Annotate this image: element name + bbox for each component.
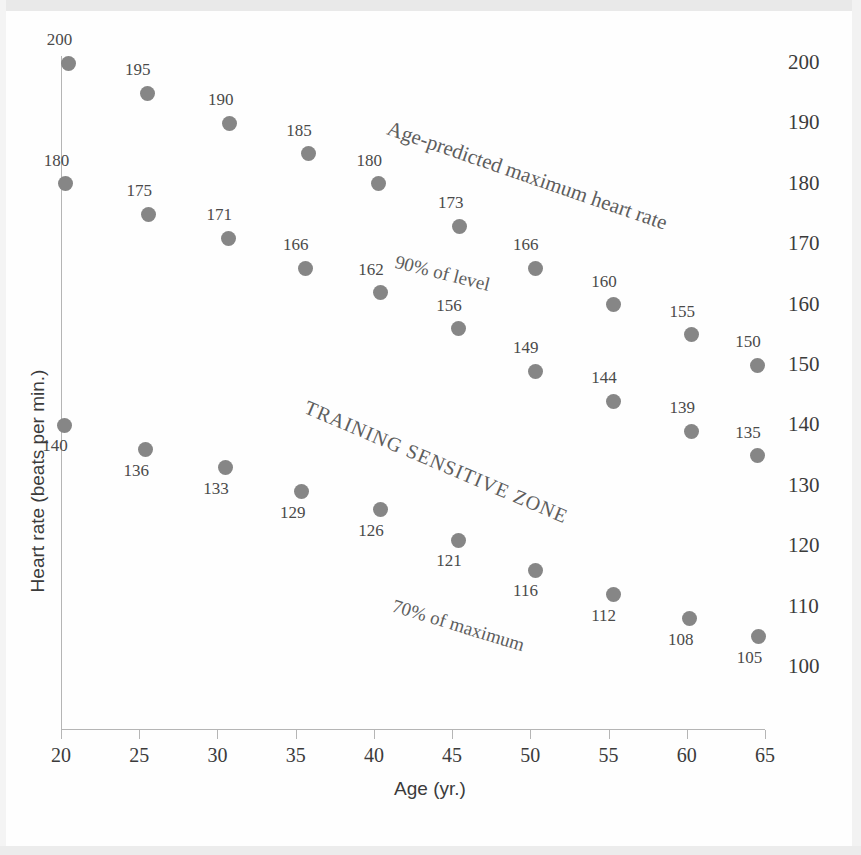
chart-page: 20253035404550556065 2001901801701601501…: [0, 0, 861, 855]
x-axis-tick: [765, 730, 766, 739]
data-point: [451, 533, 466, 548]
data-point: [218, 460, 233, 475]
data-point-label: 166: [283, 235, 309, 255]
data-point-label: 112: [591, 606, 616, 626]
x-axis-tick-label: 20: [31, 744, 91, 767]
data-point: [371, 176, 386, 191]
data-point: [301, 146, 316, 161]
data-point: [373, 285, 388, 300]
x-axis-tick: [296, 730, 297, 739]
y-axis-tick-label: 170: [788, 231, 858, 256]
data-point-label: 162: [358, 260, 384, 280]
data-point-label: 116: [513, 581, 538, 601]
x-axis-tick-label: 55: [579, 744, 639, 767]
y-axis-tick-label: 160: [788, 292, 858, 317]
data-point: [606, 394, 621, 409]
y-axis-tick-label: 180: [788, 171, 858, 196]
y-axis-tick-label: 100: [788, 654, 858, 679]
data-point: [294, 484, 309, 499]
data-point-label: 144: [591, 368, 617, 388]
data-point-label: 171: [206, 205, 232, 225]
x-axis-line: [61, 729, 765, 730]
y-axis-tick-label: 110: [788, 594, 858, 619]
data-point: [750, 448, 765, 463]
data-point-label: 126: [358, 521, 384, 541]
y-axis-tick-label: 190: [788, 110, 858, 135]
x-axis-tick: [139, 730, 140, 739]
data-point: [57, 418, 72, 433]
data-point-label: 190: [208, 90, 234, 110]
data-point: [138, 442, 153, 457]
y-axis-tick-label: 150: [788, 352, 858, 377]
data-point: [750, 358, 765, 373]
data-point: [606, 587, 621, 602]
data-point-label: 129: [280, 503, 306, 523]
data-point: [606, 297, 621, 312]
data-point: [452, 219, 467, 234]
data-point-label: 136: [123, 461, 149, 481]
x-axis-tick: [687, 730, 688, 739]
data-point-label: 135: [735, 423, 761, 443]
x-axis-tick: [374, 730, 375, 739]
x-axis-tick-label: 65: [735, 744, 795, 767]
x-axis-tick-label: 60: [657, 744, 717, 767]
x-axis-tick-label: 25: [109, 744, 169, 767]
x-axis-tick: [530, 730, 531, 739]
x-axis-tick-label: 50: [500, 744, 560, 767]
data-point-label: 108: [668, 630, 694, 650]
x-axis-title: Age (yr.): [330, 778, 530, 800]
data-point-label: 150: [735, 332, 761, 352]
data-point-label: 156: [436, 296, 462, 316]
data-point: [451, 321, 466, 336]
data-point-label: 133: [203, 479, 229, 499]
x-axis-tick: [61, 730, 62, 739]
y-axis-tick-label: 120: [788, 533, 858, 558]
data-point-label: 166: [513, 235, 539, 255]
data-point: [682, 611, 697, 626]
annotation-ninety-percent: 90% of level: [393, 251, 493, 296]
data-point: [373, 502, 388, 517]
y-axis-title: Heart rate (beats per min.): [27, 351, 49, 611]
data-point: [61, 56, 76, 71]
data-point: [222, 116, 237, 131]
data-point: [298, 261, 313, 276]
data-point-label: 149: [513, 338, 539, 358]
x-axis-tick-label: 45: [422, 744, 482, 767]
data-point: [684, 327, 699, 342]
data-point: [221, 231, 236, 246]
x-axis-tick-label: 35: [266, 744, 326, 767]
data-point-label: 175: [127, 181, 153, 201]
data-point-label: 155: [669, 302, 695, 322]
annotation-seventy-percent: 70% of maximum: [390, 595, 528, 656]
data-point-label: 200: [47, 30, 73, 50]
data-point-label: 160: [591, 272, 617, 292]
y-axis-tick-label: 140: [788, 412, 858, 437]
data-point-label: 180: [44, 151, 70, 171]
data-point: [58, 176, 73, 191]
data-point-label: 139: [669, 398, 695, 418]
data-point-label: 180: [357, 151, 383, 171]
data-point-label: 105: [737, 648, 763, 668]
data-point-label: 195: [125, 60, 151, 80]
data-point: [141, 207, 156, 222]
data-point-label: 121: [436, 551, 462, 571]
data-point-label: 173: [438, 193, 464, 213]
x-axis-tick-label: 40: [344, 744, 404, 767]
data-point: [528, 563, 543, 578]
x-axis-tick: [217, 730, 218, 739]
data-point: [528, 261, 543, 276]
x-axis-tick: [452, 730, 453, 739]
x-axis-tick-label: 30: [187, 744, 247, 767]
annotation-max-heart-rate: Age-predicted maximum heart rate: [384, 116, 671, 236]
data-point: [528, 364, 543, 379]
annotation-training-sensitive-zone: TRAINING SENSITIVE ZONE: [301, 396, 571, 528]
y-axis-tick-label: 130: [788, 473, 858, 498]
data-point: [684, 424, 699, 439]
scatter-plot-area: 20253035404550556065 2001901801701601501…: [0, 0, 861, 855]
data-point: [140, 86, 155, 101]
x-axis-tick: [609, 730, 610, 739]
data-point: [751, 629, 766, 644]
data-point-label: 185: [286, 121, 312, 141]
y-axis-tick-label: 200: [788, 50, 858, 75]
